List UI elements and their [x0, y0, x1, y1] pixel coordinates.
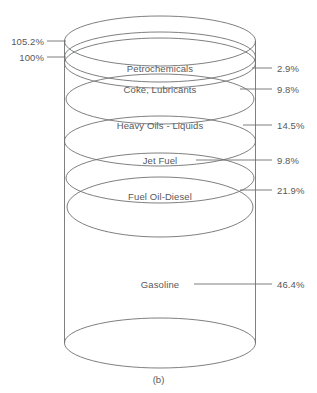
- segment-label-heavy-oils-liquids: Heavy Oils - Liquids: [117, 120, 203, 131]
- segment-label-coke-lubricants: Coke, Lubricants: [124, 84, 197, 95]
- annotation-total-105: 105.2%: [0, 36, 44, 47]
- fuel-oil-diesel-divider-ellipse: [67, 177, 253, 237]
- segment-label-gasoline: Gasoline: [141, 279, 179, 290]
- segment-label-petrochemicals: Petrochemicals: [127, 63, 193, 74]
- value-label-petrochemicals: 2.9%: [277, 63, 299, 74]
- coke-lubricants-divider-ellipse: [66, 74, 254, 124]
- value-label-jet-fuel: 9.8%: [277, 155, 299, 166]
- top-rim-ellipse: [65, 16, 256, 66]
- segment-label-jet-fuel: Jet Fuel: [143, 155, 178, 166]
- figure-caption: (b): [0, 374, 317, 385]
- value-label-coke-lubricants: 9.8%: [277, 84, 299, 95]
- bottom-base-ellipse: [65, 318, 256, 368]
- petroleum-yield-cylinder-figure: 105.2% 100% Petrochemicals Coke, Lubrica…: [0, 0, 317, 393]
- value-label-gasoline: 46.4%: [277, 279, 304, 290]
- value-label-heavy-oils-liquids: 14.5%: [277, 120, 304, 131]
- value-label-fuel-oil-diesel: 21.9%: [277, 185, 304, 196]
- segment-label-fuel-oil-diesel: Fuel Oil-Diesel: [128, 191, 192, 202]
- base-100-ellipse: [65, 32, 256, 82]
- annotation-total-100: 100%: [0, 52, 44, 63]
